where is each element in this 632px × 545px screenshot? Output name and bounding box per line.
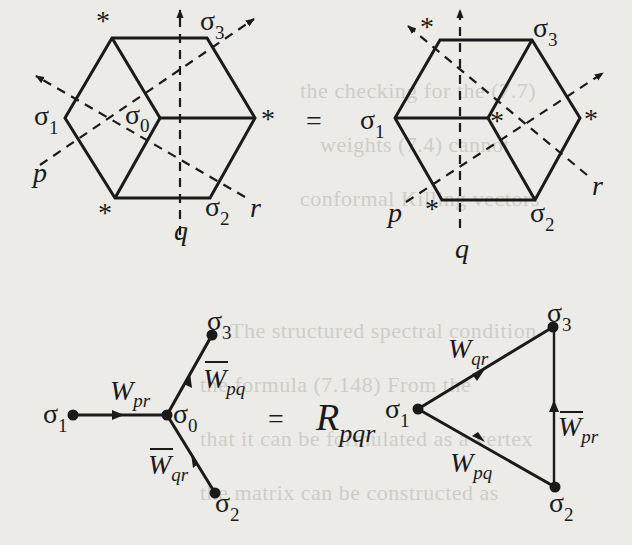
diagram-canvas: * * * σ3 σ1 σ0 σ2 p q r = * * * * σ3 σ1 … xyxy=(0,0,632,545)
star-mark: * xyxy=(425,193,439,224)
left-hexagon: * * * σ3 σ1 σ0 σ2 p q r xyxy=(31,5,275,246)
star-mark: * xyxy=(261,103,275,134)
node-sigma1 xyxy=(68,410,79,421)
star-mark: * xyxy=(96,5,110,36)
triangle-graph: σ1 σ3 σ2 Wqr Wpq Wpr xyxy=(385,297,599,525)
node-sigma0 xyxy=(162,410,173,421)
star-mark: * xyxy=(420,11,434,42)
star-graph: σ1 σ0 σ3 σ2 Wpr Wpq Wqr xyxy=(43,305,246,525)
node-sigma1 xyxy=(413,404,424,415)
axis-p-line xyxy=(406,73,603,202)
axis-label-r: r xyxy=(250,192,261,223)
edge-label-w-bar-qr: Wqr xyxy=(148,449,189,485)
node-label-sigma1: σ1 xyxy=(43,398,68,436)
vertex-label-sigma1: σ1 xyxy=(34,100,59,138)
edge-label-w-bar-pr: Wpr xyxy=(558,411,599,447)
edge-label-w-pq: Wpq xyxy=(450,447,493,483)
axis-label-q: q xyxy=(174,215,188,246)
axis-label-r: r xyxy=(592,170,603,201)
edge-label-w-pr: Wpr xyxy=(110,375,151,411)
axis-r-line xyxy=(36,76,245,197)
node-label-sigma1: σ1 xyxy=(385,393,410,431)
equals-sign: = xyxy=(268,403,284,434)
star-mark: * xyxy=(98,197,112,228)
node-label-sigma2: σ2 xyxy=(215,487,240,525)
vertex-label-sigma1: σ1 xyxy=(360,104,385,142)
axis-label-p: p xyxy=(386,197,402,228)
inner-edge xyxy=(115,118,160,198)
edge-label-w-bar-pq: Wpq xyxy=(203,363,246,399)
arrowhead-icon xyxy=(112,410,124,420)
operator-r-pqr: Rpqr xyxy=(315,396,376,448)
vertex-label-sigma2: σ2 xyxy=(530,197,555,235)
axis-label-p: p xyxy=(31,157,47,188)
node-label-sigma2: σ2 xyxy=(549,487,574,525)
star-mark: * xyxy=(584,103,598,134)
star-mark: * xyxy=(490,105,504,136)
axis-label-q: q xyxy=(455,233,469,264)
vertex-label-sigma2: σ2 xyxy=(205,191,230,229)
vertex-label-sigma3: σ3 xyxy=(533,12,558,50)
right-hexagon: * * * * σ3 σ1 σ2 p q r xyxy=(360,10,603,264)
edge-label-w-qr: Wqr xyxy=(448,333,489,369)
equals-sign: = xyxy=(306,105,322,136)
